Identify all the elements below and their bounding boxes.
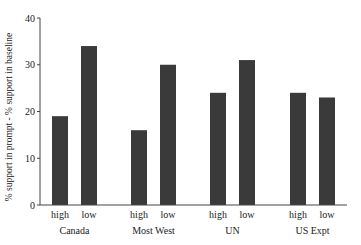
bar-un-low	[239, 60, 255, 205]
bar-us-expt-high	[290, 93, 306, 205]
bar-sublabel: high	[51, 209, 69, 220]
group-label: UN	[225, 225, 239, 236]
y-tick-label: 20	[25, 106, 35, 117]
y-tick-label: 40	[25, 13, 35, 24]
bar-canada-high	[52, 116, 68, 205]
bar-canada-low	[81, 46, 97, 205]
grouped-bar-chart: 010203040 highlowCanadahighlowMost Westh…	[0, 0, 361, 245]
chart-canvas: 010203040 highlowCanadahighlowMost Westh…	[0, 0, 361, 245]
x-axis: highlowCanadahighlowMost WesthighlowUNhi…	[40, 205, 347, 236]
y-tick-label: 0	[30, 200, 35, 211]
y-tick-label: 30	[25, 59, 35, 70]
bar-sublabel: low	[320, 209, 336, 220]
y-axis-label: % support in prompt - % support in basel…	[4, 33, 14, 201]
bar-us-expt-low	[319, 97, 335, 205]
bar-most-west-low	[160, 65, 176, 205]
bar-sublabel: high	[209, 209, 227, 220]
group-label: Canada	[60, 225, 91, 236]
bar-most-west-high	[131, 130, 147, 205]
group-label: Most West	[132, 225, 175, 236]
bars	[52, 46, 335, 205]
y-axis: 010203040	[25, 13, 40, 211]
bar-sublabel: low	[240, 209, 256, 220]
y-tick-label: 10	[25, 153, 35, 164]
group-label: US Expt	[295, 225, 329, 236]
bar-sublabel: high	[130, 209, 148, 220]
bar-un-high	[210, 93, 226, 205]
bar-sublabel: low	[82, 209, 98, 220]
bar-sublabel: high	[289, 209, 307, 220]
bar-sublabel: low	[161, 209, 177, 220]
